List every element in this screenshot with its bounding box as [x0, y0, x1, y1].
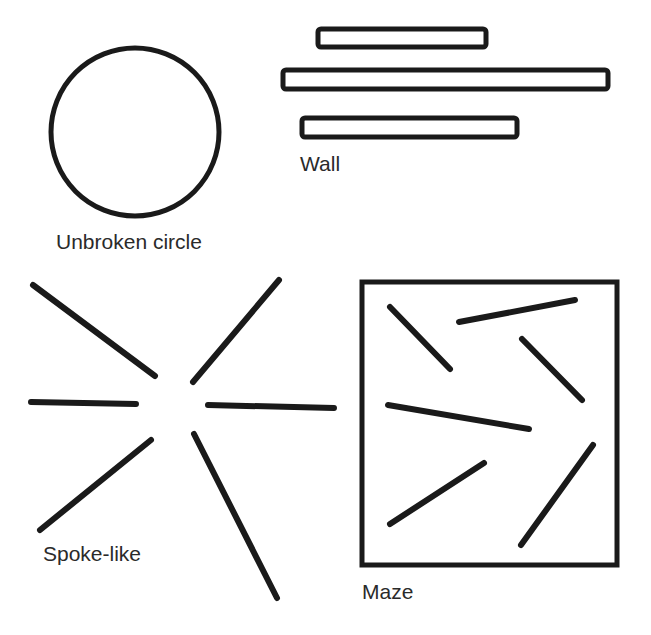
diagram-canvas	[0, 0, 651, 635]
maze-wall-1	[390, 307, 450, 369]
maze-figure	[362, 282, 617, 565]
circle-shape	[51, 48, 219, 216]
wall-bar-bottom	[302, 118, 517, 137]
spoke-like-label: Spoke-like	[43, 543, 141, 564]
spoke-lower-right	[194, 434, 277, 598]
spoke-upper-right	[193, 280, 279, 382]
maze-wall-2	[459, 300, 575, 322]
wall-bar-middle	[283, 70, 608, 89]
maze-wall-4	[388, 405, 529, 429]
wall-figure	[283, 29, 608, 137]
maze-wall-3	[522, 339, 582, 400]
maze-label: Maze	[362, 581, 413, 602]
spoke-lower-left	[40, 440, 151, 530]
unbroken-circle-label: Unbroken circle	[56, 231, 202, 252]
maze-wall-5	[390, 463, 484, 524]
wall-bar-top	[318, 29, 486, 47]
unbroken-circle-figure	[51, 48, 219, 216]
spoke-right	[208, 405, 334, 408]
maze-wall-6	[521, 445, 593, 545]
spoke-upper-left	[33, 285, 155, 376]
spoke-left	[31, 402, 136, 404]
wall-label: Wall	[300, 153, 340, 174]
